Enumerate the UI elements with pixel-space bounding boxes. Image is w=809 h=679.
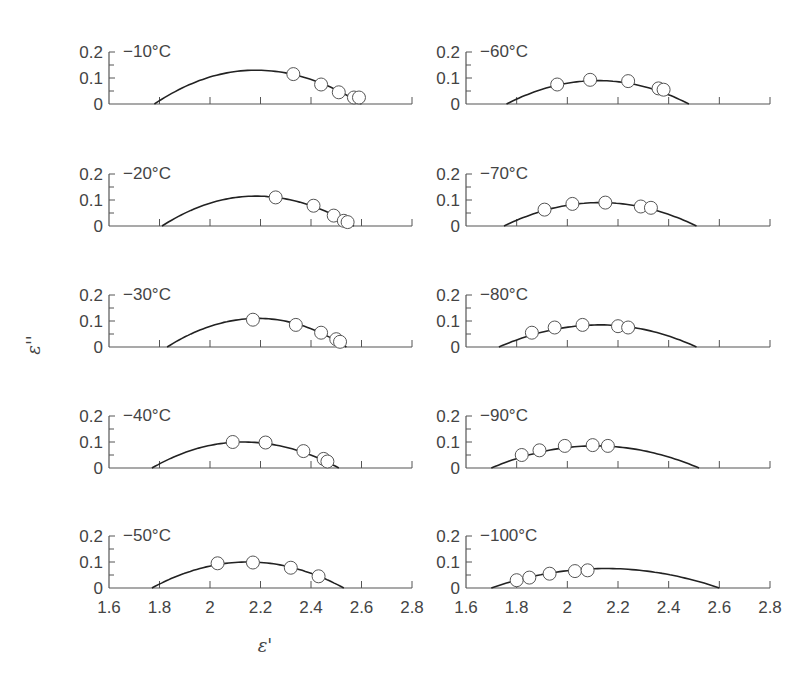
x-tick-label: 1.8	[505, 598, 529, 617]
y-tick-label: 0.1	[436, 312, 460, 331]
y-tick-label: 0.2	[79, 165, 103, 184]
y-tick-label: 0.1	[436, 69, 460, 88]
data-point	[548, 321, 561, 334]
data-point	[551, 78, 564, 91]
data-point	[533, 444, 546, 457]
fit-arc	[154, 70, 361, 104]
data-point	[515, 449, 528, 462]
data-point	[599, 196, 612, 209]
panel: 00.10.2−20°C	[79, 164, 412, 236]
panel: 00.10.2−90°C	[436, 406, 770, 478]
y-tick-label: 0	[451, 338, 460, 357]
y-tick-label: 0	[94, 95, 103, 114]
data-point	[211, 557, 224, 570]
y-tick-label: 0	[94, 579, 103, 598]
y-tick-label: 0	[94, 217, 103, 236]
temperature-label: −100°C	[480, 526, 537, 545]
y-tick-label: 0	[451, 579, 460, 598]
temperature-label: −50°C	[123, 526, 171, 545]
data-point	[576, 318, 589, 331]
data-point	[321, 455, 334, 468]
data-point	[297, 445, 310, 458]
data-point	[287, 68, 300, 81]
data-point	[566, 197, 579, 210]
x-tick-label: 2.6	[708, 598, 732, 617]
panels-group: 00.10.2−10°C00.10.2−20°C00.10.2−30°C00.1…	[79, 42, 781, 617]
temperature-label: −10°C	[123, 42, 171, 61]
x-tick-label: 2.4	[657, 598, 681, 617]
panel: 00.10.2−60°C	[436, 42, 770, 114]
data-point	[568, 565, 581, 578]
temperature-label: −40°C	[123, 406, 171, 425]
x-tick-label: 2.4	[299, 598, 323, 617]
y-tick-label: 0	[451, 217, 460, 236]
x-tick-label: 1.6	[97, 598, 121, 617]
x-tick-label: 1.6	[454, 598, 478, 617]
y-tick-label: 0.2	[79, 43, 103, 62]
x-tick-label: 1.8	[148, 598, 172, 617]
data-point	[315, 326, 328, 339]
temperature-label: −70°C	[480, 164, 528, 183]
panel: 00.10.2−40°C	[79, 406, 412, 478]
panel: 00.10.2−10°C	[79, 42, 412, 114]
temperature-label: −90°C	[480, 406, 528, 425]
y-tick-label: 0.2	[436, 527, 460, 546]
y-tick-label: 0.1	[436, 553, 460, 572]
data-point	[246, 556, 259, 569]
panel: 00.10.2−70°C	[436, 164, 770, 236]
data-point	[259, 436, 272, 449]
temperature-label: −60°C	[480, 42, 528, 61]
data-point	[332, 86, 345, 99]
y-tick-label: 0.1	[79, 553, 103, 572]
data-point	[315, 78, 328, 91]
data-point	[581, 564, 594, 577]
y-tick-label: 0.1	[79, 69, 103, 88]
panel: 1.61.822.22.42.62.800.10.2−100°C	[436, 526, 781, 617]
x-tick-label: 2.6	[350, 598, 374, 617]
x-tick-label: 2.8	[400, 598, 424, 617]
data-point	[657, 83, 670, 96]
data-point	[312, 570, 325, 583]
data-point	[523, 571, 536, 584]
y-tick-label: 0.2	[436, 407, 460, 426]
x-tick-label: 2.8	[758, 598, 782, 617]
panel: 00.10.2−80°C	[436, 285, 770, 357]
data-point	[558, 439, 571, 452]
y-tick-label: 0.2	[436, 43, 460, 62]
x-tick-label: 2.2	[249, 598, 273, 617]
y-tick-label: 0.1	[79, 433, 103, 452]
cole-cole-chart: 00.10.2−10°C00.10.2−20°C00.10.2−30°C00.1…	[0, 0, 809, 679]
y-tick-label: 0	[451, 95, 460, 114]
y-tick-label: 0.2	[79, 407, 103, 426]
data-point	[622, 321, 635, 334]
data-point	[269, 191, 282, 204]
y-tick-label: 0.1	[436, 433, 460, 452]
y-axis-title: ε''	[23, 335, 44, 355]
temperature-label: −20°C	[123, 164, 171, 183]
data-point	[284, 561, 297, 574]
y-tick-label: 0.1	[436, 191, 460, 210]
data-point	[334, 335, 347, 348]
y-tick-label: 0	[94, 459, 103, 478]
fit-arc	[162, 196, 354, 226]
x-tick-label: 2	[205, 598, 214, 617]
data-point	[644, 201, 657, 214]
data-point	[586, 439, 599, 452]
y-tick-label: 0.2	[436, 286, 460, 305]
data-point	[622, 75, 635, 88]
x-tick-label: 2.2	[606, 598, 630, 617]
data-point	[352, 91, 365, 104]
data-point	[543, 567, 556, 580]
temperature-label: −30°C	[123, 285, 171, 304]
x-axis-title: ε'	[258, 635, 273, 656]
y-tick-label: 0	[94, 338, 103, 357]
y-tick-label: 0.2	[436, 165, 460, 184]
data-point	[307, 199, 320, 212]
data-point	[538, 203, 551, 216]
y-tick-label: 0.1	[79, 191, 103, 210]
data-point	[584, 73, 597, 86]
data-point	[525, 326, 538, 339]
y-tick-label: 0.2	[79, 286, 103, 305]
data-point	[289, 318, 302, 331]
data-point	[341, 216, 354, 229]
